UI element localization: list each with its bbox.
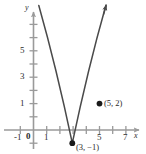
parabola-figure: -1 0 1 5 7 5 3 1 x y (3, −1) (5, 2) (0, 0, 146, 154)
curve-point-label: (5, 2) (104, 99, 122, 108)
vertex-point-label: (3, −1) (76, 143, 99, 152)
curve-point-5-2 (97, 101, 103, 107)
x-tick-label-0: 0 (26, 132, 31, 141)
y-tick-label-3: 3 (20, 72, 25, 81)
x-tick-label-7: 7 (123, 133, 128, 142)
vertex-point (69, 140, 75, 146)
y-axis-label: y (25, 4, 29, 12)
x-axis-label: x (134, 132, 138, 140)
y-tick-label-1: 1 (20, 99, 25, 108)
parabola-curve (39, 5, 106, 143)
y-tick-label-5: 5 (20, 46, 25, 55)
x-tick-label-1: 1 (44, 133, 49, 142)
x-tick-label-neg1: -1 (14, 133, 22, 142)
x-tick-label-5: 5 (97, 133, 102, 142)
